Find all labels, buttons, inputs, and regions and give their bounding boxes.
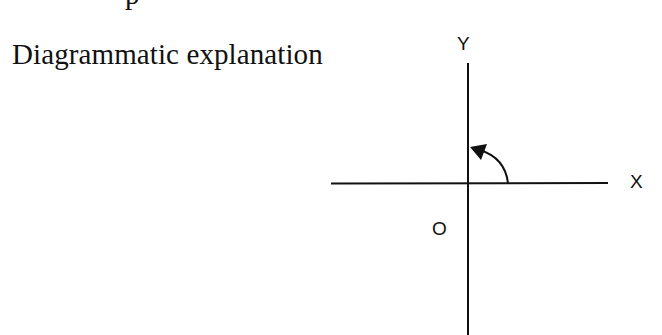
document-page: p Diagrammatic explanation Y X O xyxy=(0,0,662,335)
x-axis-line xyxy=(331,183,608,184)
origin-label: O xyxy=(432,218,447,239)
coordinate-axes-diagram: Y X O xyxy=(0,0,662,335)
x-axis-label: X xyxy=(630,171,643,192)
y-axis-label: Y xyxy=(457,33,470,54)
rotation-arc xyxy=(480,150,508,183)
